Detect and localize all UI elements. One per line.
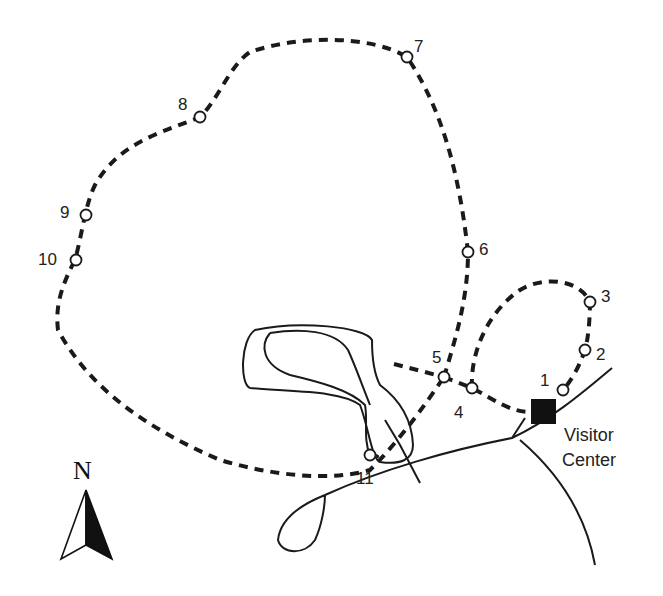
- stop-10-marker[interactable]: [71, 255, 82, 266]
- visitor-center-label-line1: Visitor: [564, 425, 614, 445]
- stop-8-marker[interactable]: [195, 112, 206, 123]
- stop-2-label: 2: [596, 345, 605, 364]
- lake: [243, 325, 413, 463]
- stop-11-label: 11: [356, 469, 374, 488]
- stop-9-marker[interactable]: [81, 210, 92, 221]
- north-arrow: N: [61, 456, 112, 559]
- visitor-center[interactable]: Visitor Center: [531, 399, 616, 470]
- stop-3-marker[interactable]: [585, 297, 596, 308]
- north-label: N: [73, 456, 92, 485]
- stop-3-label: 3: [601, 287, 610, 306]
- stop-4-marker[interactable]: [467, 383, 478, 394]
- stop-6-marker[interactable]: [463, 247, 474, 258]
- stop-11-marker[interactable]: [365, 450, 376, 461]
- stop-6-label: 6: [479, 240, 488, 259]
- visitor-center-label-line2: Center: [562, 450, 616, 470]
- stop-7-marker[interactable]: [402, 52, 413, 63]
- trail-map: 1 2 3 4 5 6 7 8 9 10 11 Visitor Center N: [0, 0, 663, 596]
- north-arrow-left-half-icon: [61, 490, 86, 559]
- visitor-center-icon[interactable]: [531, 399, 556, 424]
- stop-1-label: 1: [540, 371, 549, 390]
- stop-markers: [71, 52, 596, 461]
- stop-9-label: 9: [60, 203, 69, 222]
- stop-10-label: 10: [38, 250, 57, 269]
- stop-8-label: 8: [178, 95, 187, 114]
- stop-5-label: 5: [432, 348, 441, 367]
- stop-5-marker[interactable]: [439, 372, 450, 383]
- stop-4-label: 4: [454, 403, 463, 422]
- stop-1-marker[interactable]: [558, 385, 569, 396]
- stop-7-label: 7: [414, 37, 423, 56]
- north-arrow-right-half-icon: [86, 490, 112, 559]
- stop-2-marker[interactable]: [580, 345, 591, 356]
- trails: [57, 40, 590, 476]
